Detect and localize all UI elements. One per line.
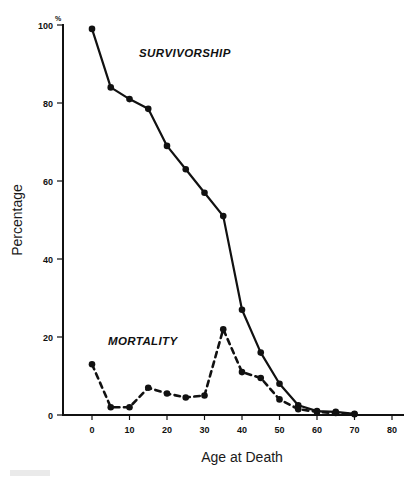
- data-point: [314, 409, 321, 416]
- data-point: [126, 96, 133, 103]
- data-point: [164, 143, 171, 150]
- data-point: [201, 189, 208, 196]
- axis-lines: [63, 24, 404, 415]
- y-tick-label: 40: [43, 255, 53, 265]
- data-point: [89, 361, 96, 368]
- data-point: [332, 410, 339, 417]
- data-point: [107, 404, 114, 411]
- y-tick-label: 60: [43, 177, 53, 187]
- x-tick-label: 70: [349, 425, 359, 435]
- x-tick-label: 20: [162, 425, 172, 435]
- data-point: [126, 404, 133, 411]
- scan-artifact: [10, 470, 50, 476]
- data-point: [201, 392, 208, 399]
- y-axis-unit: %: [55, 15, 62, 22]
- x-axis: 01020304050607080: [89, 415, 397, 435]
- data-point: [182, 394, 189, 401]
- data-point: [257, 349, 264, 356]
- data-point: [89, 26, 96, 33]
- x-tick-label: 60: [312, 425, 322, 435]
- data-point: [164, 390, 171, 397]
- x-tick-label: 80: [387, 425, 397, 435]
- y-tick-label: 20: [43, 333, 53, 343]
- data-point: [276, 381, 283, 388]
- data-point: [182, 166, 189, 173]
- data-point: [239, 369, 246, 376]
- y-tick-label: 0: [48, 411, 53, 421]
- data-point: [220, 326, 227, 333]
- survivorship-mortality-chart: 020406080100%01020304050607080Age at Dea…: [0, 0, 414, 478]
- data-point: [239, 306, 246, 313]
- data-point: [145, 106, 152, 113]
- data-point: [257, 375, 264, 382]
- x-tick-label: 0: [89, 425, 94, 435]
- x-tick-label: 40: [237, 425, 247, 435]
- series-annotation: SURVIVORSHIP: [139, 47, 231, 59]
- data-point: [145, 384, 152, 391]
- data-point: [276, 396, 283, 403]
- y-tick-label: 80: [43, 99, 53, 109]
- series-line: [92, 29, 355, 414]
- x-tick-label: 10: [124, 425, 134, 435]
- y-axis: 020406080100%: [38, 15, 63, 421]
- data-point: [351, 411, 358, 418]
- data-point: [295, 406, 302, 413]
- y-tick-label: 100: [38, 21, 53, 31]
- data-point: [220, 213, 227, 220]
- x-axis-title: Age at Death: [201, 449, 283, 465]
- series-survivorship: [89, 26, 358, 418]
- x-tick-label: 50: [274, 425, 284, 435]
- x-tick-label: 30: [199, 425, 209, 435]
- y-axis-title: Percentage: [9, 184, 25, 256]
- series-annotation: MORTALITY: [108, 335, 179, 347]
- chart-canvas: 020406080100%01020304050607080Age at Dea…: [0, 0, 414, 478]
- data-point: [107, 84, 114, 91]
